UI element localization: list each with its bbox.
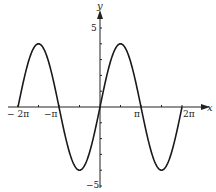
y-axis-label: y — [96, 0, 103, 11]
y-axis-arrow-icon — [97, 10, 103, 19]
x-tick-label-pi: π — [134, 109, 140, 119]
y-tick-label-5: 5 — [91, 23, 97, 33]
x-tick-label-neg2pi: − 2π — [7, 109, 29, 119]
x-tick-label-negpi: −π — [44, 109, 58, 119]
y-tick-label-neg5: −5 — [86, 180, 100, 190]
sine-plot: x y 5 −5 − 2π −π π 2π — [0, 0, 216, 192]
x-tick-label-2pi: 2π — [183, 109, 195, 119]
x-axis-label: x — [207, 102, 213, 113]
